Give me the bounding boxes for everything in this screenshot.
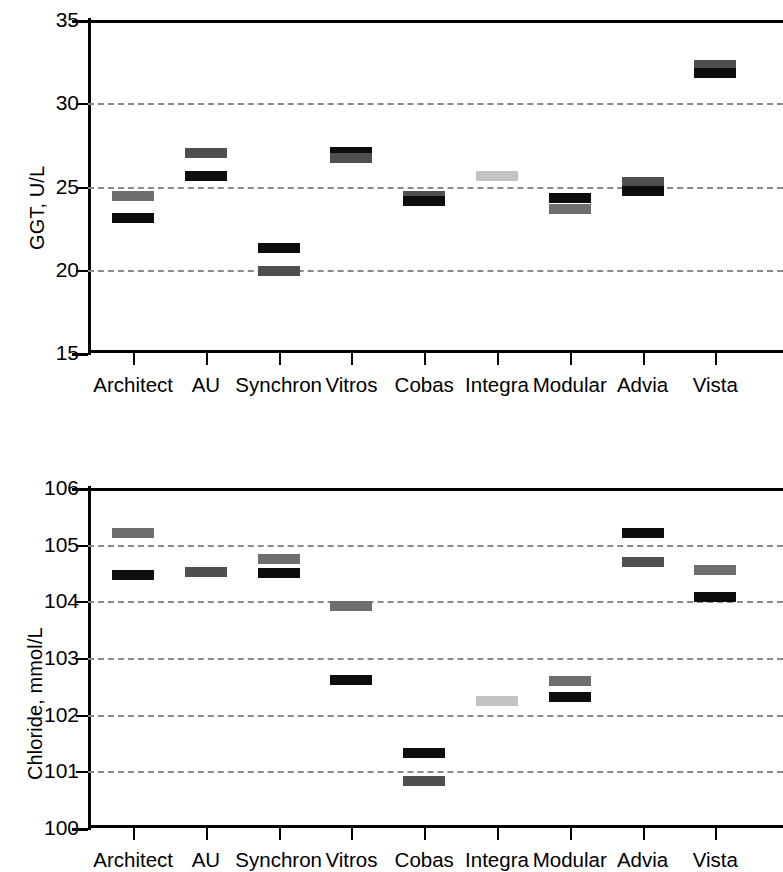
ggt-y-tick-label: 35 bbox=[56, 8, 79, 32]
chloride-marker bbox=[549, 676, 591, 686]
chloride-marker bbox=[549, 692, 591, 702]
ggt-x-tick-label: Advia bbox=[617, 373, 668, 397]
ggt-marker bbox=[549, 204, 591, 214]
ggt-marker bbox=[258, 266, 300, 276]
ggt-x-tick-label: Integra bbox=[465, 373, 529, 397]
chloride-marker bbox=[112, 528, 154, 538]
ggt-y-tick-label: 20 bbox=[56, 258, 79, 282]
chloride-marker bbox=[258, 554, 300, 564]
chloride-axis-line-bottom bbox=[88, 825, 783, 828]
chloride-x-tick bbox=[351, 828, 353, 840]
chloride-marker bbox=[694, 592, 736, 602]
ggt-x-tick-label: Synchron bbox=[235, 373, 322, 397]
chloride-x-tick-label: Vista bbox=[693, 848, 738, 872]
chloride-marker bbox=[258, 568, 300, 578]
chloride-y-tick-label: 101 bbox=[44, 759, 79, 783]
ggt-marker bbox=[694, 68, 736, 78]
ggt-x-tick bbox=[133, 353, 135, 365]
ggt-y-axis-title: GGT, U/L bbox=[26, 166, 49, 250]
ggt-marker bbox=[112, 191, 154, 201]
chloride-y-tick-label: 105 bbox=[44, 533, 79, 557]
chloride-gridline bbox=[88, 771, 783, 773]
ggt-x-tick-label: Vista bbox=[693, 373, 738, 397]
chloride-marker bbox=[476, 696, 518, 706]
ggt-axis-line-bottom bbox=[88, 350, 783, 353]
ggt-gridline bbox=[88, 103, 783, 105]
chloride-gridline bbox=[88, 545, 783, 547]
ggt-x-tick bbox=[497, 353, 499, 365]
ggt-x-tick bbox=[715, 353, 717, 365]
chloride-y-tick-label: 104 bbox=[44, 589, 79, 613]
chloride-x-tick-label: AU bbox=[192, 848, 220, 872]
ggt-panel: GGT, U/L 1520253035ArchitectAUSynchronVi… bbox=[0, 0, 783, 430]
ggt-x-tick-label: Modular bbox=[533, 373, 607, 397]
ggt-x-tick bbox=[570, 353, 572, 365]
chloride-marker bbox=[112, 570, 154, 580]
chloride-x-tick bbox=[497, 828, 499, 840]
chloride-marker bbox=[694, 565, 736, 575]
chloride-plot-area: 100101102103104105106ArchitectAUSynchron… bbox=[88, 488, 783, 828]
chloride-panel: Chloride, mmol/L 100101102103104105106Ar… bbox=[0, 430, 783, 862]
ggt-gridline bbox=[88, 187, 783, 189]
ggt-y-tick-label: 30 bbox=[56, 91, 79, 115]
chloride-x-tick-label: Cobas bbox=[395, 848, 454, 872]
chloride-x-tick bbox=[424, 828, 426, 840]
chloride-marker bbox=[622, 528, 664, 538]
chloride-gridline bbox=[88, 601, 783, 603]
ggt-x-tick-label: Architect bbox=[93, 373, 173, 397]
ggt-x-tick bbox=[643, 353, 645, 365]
ggt-marker bbox=[185, 171, 227, 181]
chloride-x-tick bbox=[570, 828, 572, 840]
ggt-marker bbox=[330, 153, 372, 163]
chloride-x-tick bbox=[643, 828, 645, 840]
chloride-y-tick-label: 102 bbox=[44, 703, 79, 727]
ggt-x-tick-label: Vitros bbox=[325, 373, 377, 397]
chloride-x-tick-label: Integra bbox=[465, 848, 529, 872]
chloride-x-tick bbox=[206, 828, 208, 840]
ggt-marker bbox=[403, 196, 445, 206]
chloride-x-tick bbox=[715, 828, 717, 840]
ggt-marker bbox=[476, 171, 518, 181]
chloride-y-tick-label: 100 bbox=[44, 816, 79, 840]
chloride-marker bbox=[330, 675, 372, 685]
ggt-x-tick bbox=[279, 353, 281, 365]
chloride-marker bbox=[185, 567, 227, 577]
chloride-axis-line-top bbox=[88, 488, 783, 491]
chloride-y-tick-label: 103 bbox=[44, 646, 79, 670]
ggt-x-tick bbox=[351, 353, 353, 365]
chloride-x-tick-label: Advia bbox=[617, 848, 668, 872]
ggt-x-tick-label: AU bbox=[192, 373, 220, 397]
ggt-y-tick-label: 25 bbox=[56, 175, 79, 199]
chloride-x-tick bbox=[279, 828, 281, 840]
ggt-y-tick-label: 15 bbox=[56, 341, 79, 365]
ggt-axis-line-top bbox=[88, 20, 783, 23]
ggt-marker bbox=[112, 213, 154, 223]
chloride-y-tick-label: 106 bbox=[44, 476, 79, 500]
chloride-marker bbox=[330, 601, 372, 611]
chloride-marker bbox=[622, 557, 664, 567]
chloride-gridline bbox=[88, 658, 783, 660]
chloride-x-tick-label: Architect bbox=[93, 848, 173, 872]
ggt-x-tick bbox=[424, 353, 426, 365]
chloride-marker bbox=[403, 776, 445, 786]
ggt-marker bbox=[549, 193, 591, 203]
ggt-marker bbox=[258, 243, 300, 253]
ggt-marker bbox=[185, 148, 227, 158]
chloride-gridline bbox=[88, 715, 783, 717]
chloride-x-tick-label: Synchron bbox=[235, 848, 322, 872]
ggt-gridline bbox=[88, 270, 783, 272]
ggt-marker bbox=[622, 186, 664, 196]
chloride-x-tick-label: Modular bbox=[533, 848, 607, 872]
ggt-x-tick bbox=[206, 353, 208, 365]
chloride-marker bbox=[403, 748, 445, 758]
chloride-x-tick bbox=[133, 828, 135, 840]
chloride-x-tick-label: Vitros bbox=[325, 848, 377, 872]
ggt-plot-area: 1520253035ArchitectAUSynchronVitrosCobas… bbox=[88, 20, 783, 353]
ggt-x-tick-label: Cobas bbox=[395, 373, 454, 397]
